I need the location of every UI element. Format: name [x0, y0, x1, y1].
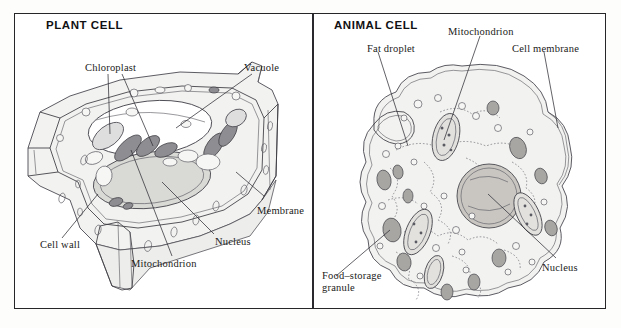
label-membrane: Membrane: [257, 205, 304, 217]
label-cell-membrane: Cell membrane: [512, 43, 579, 55]
plant-cell-drawing: [28, 62, 278, 290]
label-chloroplast: Chloroplast: [85, 62, 136, 74]
label-cell-wall: Cell wall: [40, 239, 80, 251]
label-mitochondrion-animal: Mitochondrion: [448, 26, 514, 38]
label-nucleus-animal: Nucleus: [542, 262, 578, 274]
label-vacuole: Vacuole: [244, 62, 279, 74]
panel-title-animal: ANIMAL CELL: [334, 19, 418, 31]
label-mitochondrion-plant: Mitochondrion: [131, 258, 197, 270]
panel-title-plant: PLANT CELL: [46, 19, 123, 31]
label-fat-droplet: Fat droplet: [367, 43, 415, 55]
label-food-storage-granule: Food–storage granule: [322, 270, 398, 293]
label-nucleus-plant: Nucleus: [215, 236, 251, 248]
animal-cell-drawing: [336, 36, 572, 300]
cell-diagram-figure: PLANT CELL ANIMAL CELL Chloroplast Vacuo…: [0, 0, 621, 328]
